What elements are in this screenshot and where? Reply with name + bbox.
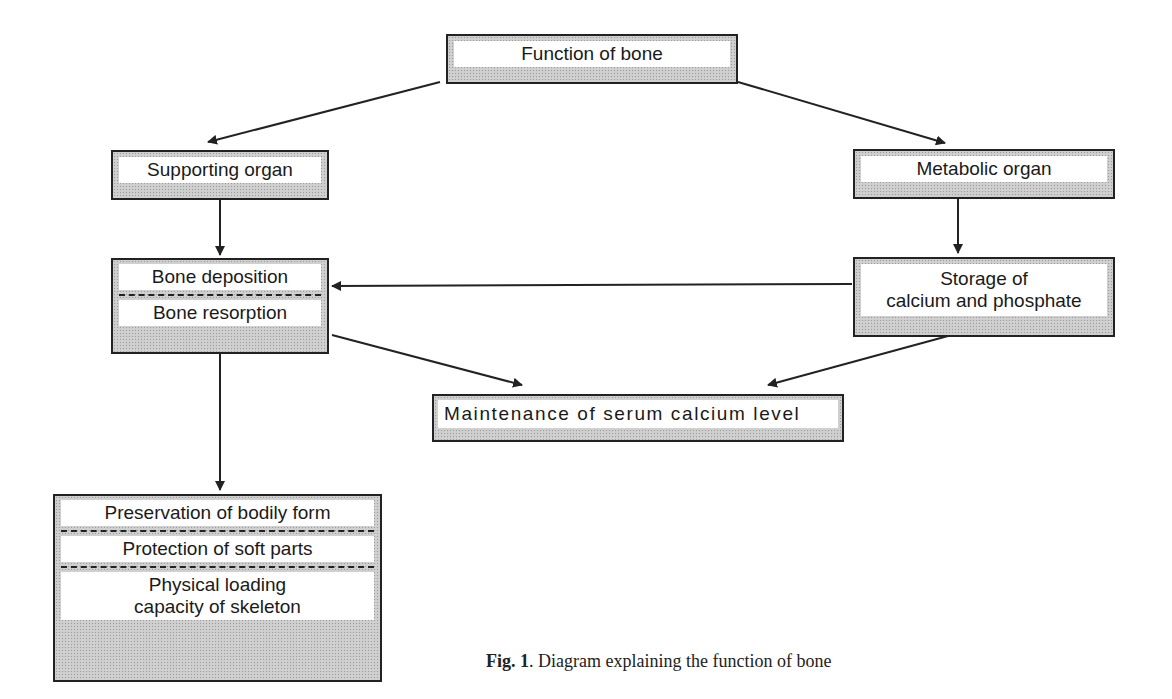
arrow-storage-to-maintenance <box>768 336 948 385</box>
node-label: Storage of calcium and phosphate <box>861 264 1107 316</box>
node-bone-deposition-resorption: Bone deposition Bone resorption <box>111 258 329 354</box>
node-label: Supporting organ <box>119 157 321 183</box>
node-storage: Storage of calcium and phosphate <box>853 257 1115 337</box>
row-protection: Protection of soft parts <box>61 530 374 566</box>
node-label-line: calcium and phosphate <box>865 290 1103 312</box>
node-label: Maintenance of serum calcium level <box>438 400 838 428</box>
node-label: Bone deposition <box>119 264 321 290</box>
row-bone-deposition: Bone deposition <box>119 260 321 294</box>
node-metabolic-organ: Metabolic organ <box>853 149 1115 199</box>
node-function-of-bone: Function of bone <box>446 34 738 84</box>
node-maintenance-serum-calcium: Maintenance of serum calcium level <box>432 394 844 442</box>
caption-label: Fig. 1 <box>486 651 529 671</box>
node-label-line: capacity of skeleton <box>65 596 370 618</box>
caption-text: . Diagram explaining the function of bon… <box>529 651 831 671</box>
arrow-function-to-metabolic <box>738 82 945 143</box>
node-label-line: Physical loading <box>65 574 370 596</box>
row-bone-resorption: Bone resorption <box>119 294 321 330</box>
arrow-resorption-to-maintenance <box>332 335 522 385</box>
node-label: Preservation of bodily form <box>61 500 374 526</box>
node-label: Protection of soft parts <box>61 536 374 562</box>
node-label: Bone resorption <box>119 300 321 326</box>
node-structural-functions: Preservation of bodily form Protection o… <box>53 494 382 682</box>
row-preservation: Preservation of bodily form <box>61 496 374 530</box>
row-physical-loading: Physical loading capacity of skeleton <box>61 566 374 624</box>
node-label: Function of bone <box>454 41 730 67</box>
figure-caption: Fig. 1. Diagram explaining the function … <box>486 651 831 672</box>
arrow-storage-to-deposition <box>332 284 852 286</box>
node-label-line: Storage of <box>865 268 1103 290</box>
node-label: Physical loading capacity of skeleton <box>61 572 374 620</box>
node-supporting-organ: Supporting organ <box>111 150 329 200</box>
arrow-function-to-supporting <box>208 82 440 142</box>
node-label: Metabolic organ <box>861 156 1107 182</box>
